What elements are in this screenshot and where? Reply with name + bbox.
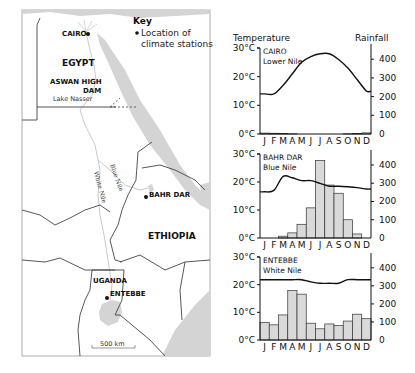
rainfall-bar [297, 224, 306, 238]
rainfall-tick-label: 200 [379, 92, 396, 102]
temperature-tick-label: 0°C [238, 129, 255, 139]
month-label: D [363, 136, 370, 146]
temperature-line [260, 279, 371, 283]
month-label: M [298, 240, 306, 250]
station-title: BAHR DAR [263, 153, 303, 162]
temperature-tick-label: 10°C [233, 205, 255, 215]
station-label-entebbe: ENTEBBE [110, 290, 146, 298]
month-label: M [279, 240, 287, 250]
key-text-line2: climate stations [141, 39, 213, 49]
temperature-tick-label: 30°C [233, 252, 255, 262]
month-label: J [262, 342, 266, 352]
temperature-tick-label: 20°C [233, 177, 255, 187]
month-label: A [326, 240, 333, 250]
month-label: J [318, 136, 322, 146]
station-marker-entebbe [105, 296, 109, 300]
station-marker-bahr-dar [144, 195, 148, 199]
station-title: ENTEBBE [263, 256, 298, 265]
rainfall-bar [353, 314, 362, 340]
chart-entebbe: 0°C10°C20°C30°C0100200300400ENTEBBEWhite… [233, 252, 397, 352]
month-label: J [309, 342, 313, 352]
temperature-axis-title: Temperature [232, 33, 290, 43]
station-subtitle: Lower Nile [263, 57, 303, 66]
rainfall-tick-label: 0 [379, 129, 385, 139]
key-text-line1: Location of [141, 28, 191, 38]
month-label: M [298, 136, 306, 146]
month-label: J [262, 240, 266, 250]
rainfall-bar [334, 193, 343, 238]
rainfall-bar [297, 294, 306, 340]
rainfall-tick-label: 300 [379, 73, 396, 83]
month-label: A [289, 136, 296, 146]
temperature-tick-label: 10°C [233, 100, 255, 110]
chart-bahr-dar: 0°C10°C20°C30°C0100200300400BAHR DARBlue… [233, 149, 397, 250]
rainfall-bar [279, 133, 288, 134]
country-label-uganda: UGANDA [93, 277, 128, 285]
rainfall-bar [288, 233, 297, 238]
temperature-tick-label: 30°C [233, 149, 255, 159]
month-label: O [344, 342, 351, 352]
rainfall-bar [325, 185, 334, 238]
scale-label: 500 km [100, 340, 125, 348]
station-subtitle: Blue Nile [263, 163, 297, 172]
month-label: J [309, 240, 313, 250]
temperature-tick-label: 30°C [233, 43, 255, 53]
station-subtitle: White Nile [263, 266, 302, 275]
rainfall-tick-label: 100 [379, 110, 396, 120]
rainfall-bar [334, 326, 343, 340]
rainfall-bar [362, 319, 371, 340]
station-label-bahr-dar: BAHR DAR [149, 191, 191, 199]
rainfall-bar [279, 315, 288, 340]
rainfall-tick-label: 100 [379, 215, 396, 225]
month-label: A [326, 342, 333, 352]
month-label: N [354, 342, 361, 352]
dam-label-line2: DAM [83, 87, 101, 95]
month-label: J [262, 136, 266, 146]
station-label-cairo: CAIRO [62, 30, 87, 38]
rainfall-bar [353, 234, 362, 238]
temperature-tick-label: 20°C [233, 72, 255, 82]
rainfall-bar [269, 325, 278, 340]
month-label: O [344, 136, 351, 146]
rainfall-bar [343, 220, 352, 238]
rainfall-bar [269, 133, 278, 134]
rainfall-tick-label: 400 [379, 160, 396, 170]
rainfall-tick-label: 0 [379, 233, 385, 243]
month-label: N [354, 136, 361, 146]
month-label: A [326, 136, 333, 146]
temperature-tick-label: 10°C [233, 307, 255, 317]
rainfall-tick-label: 200 [379, 196, 396, 206]
month-label: S [336, 136, 342, 146]
station-title: CAIRO [263, 47, 287, 56]
rainfall-tick-label: 200 [379, 299, 396, 309]
country-label-egypt: EGYPT [62, 58, 95, 68]
month-label: O [344, 240, 351, 250]
rainfall-bar [362, 133, 371, 134]
month-label: M [298, 342, 306, 352]
rainfall-tick-label: 400 [379, 263, 396, 273]
country-label-ethiopia: ETHIOPIA [148, 231, 196, 241]
month-label: S [336, 240, 342, 250]
rainfall-bar [288, 290, 297, 340]
month-label: D [363, 342, 370, 352]
key-title: Key [133, 16, 152, 26]
key-station-marker [135, 31, 139, 35]
rainfall-tick-label: 400 [379, 54, 396, 64]
rainfall-bar [316, 329, 325, 340]
rainfall-bar [325, 324, 334, 340]
month-label: D [363, 240, 370, 250]
rainfall-bar [343, 321, 352, 340]
temperature-tick-label: 0°C [238, 335, 255, 345]
month-label: J [318, 342, 322, 352]
temperature-tick-label: 0°C [238, 233, 255, 243]
nile-basin-map: CAIRO EGYPT ASWAN HIGH DAM Lake Nasser K… [0, 0, 215, 373]
rainfall-bar [260, 133, 269, 134]
station-marker-cairo [86, 32, 90, 36]
month-label: A [289, 240, 296, 250]
month-label: S [336, 342, 342, 352]
month-label: M [279, 342, 287, 352]
month-label: M [279, 136, 287, 146]
temperature-tick-label: 20°C [233, 280, 255, 290]
month-label: J [318, 240, 322, 250]
month-label: F [271, 136, 276, 146]
